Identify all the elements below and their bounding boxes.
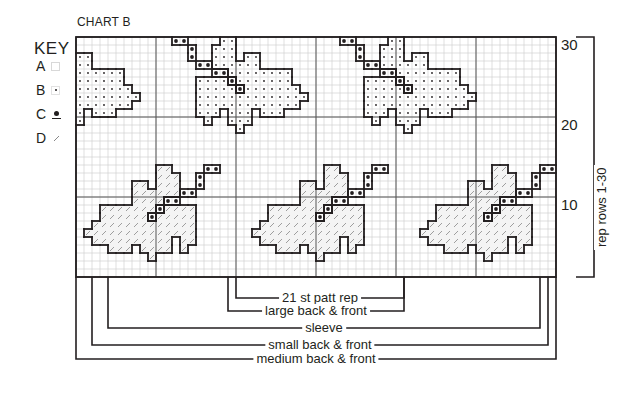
- size-bracket-label: large back & front: [262, 304, 370, 317]
- row-number-10: 10: [561, 196, 578, 213]
- size-bracket-label: sleeve: [302, 321, 346, 334]
- size-bracket-label: medium back & front: [253, 352, 378, 365]
- row-number-20: 20: [561, 116, 578, 133]
- rep-rows-label: rep rows 1-30: [594, 165, 609, 250]
- size-bracket-label: small back & front: [265, 338, 374, 351]
- row-number-30: 30: [561, 36, 578, 53]
